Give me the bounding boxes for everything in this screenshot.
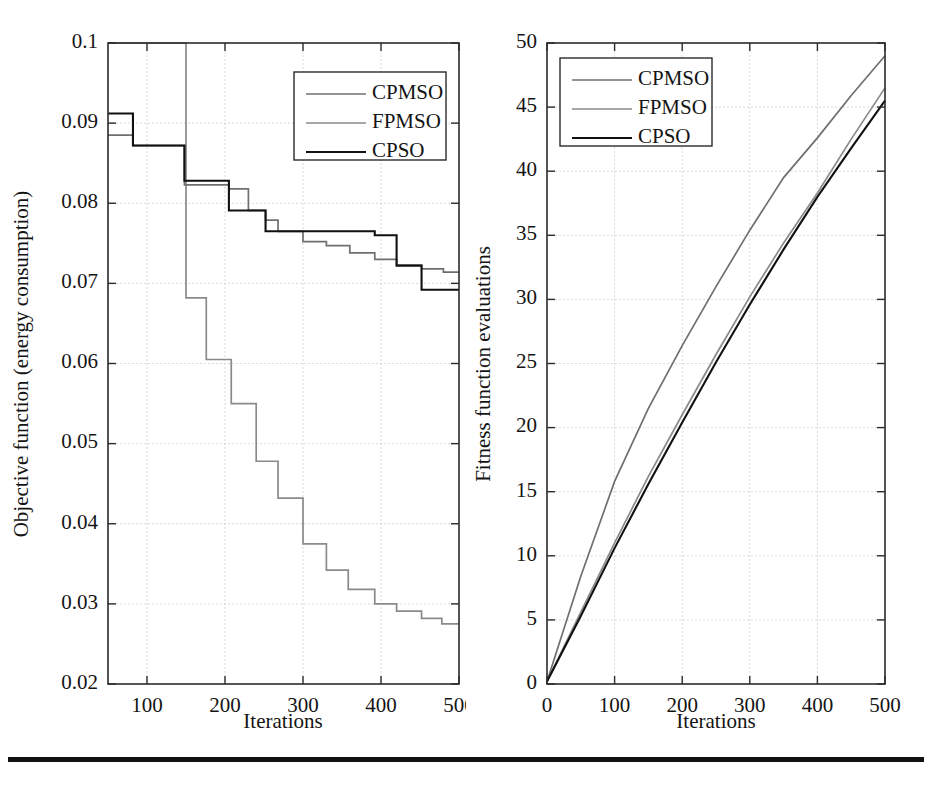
right-y-tick: 50 bbox=[516, 29, 537, 53]
left-legend: CPMSOFPMSOCPSO bbox=[294, 72, 446, 162]
left-y-tick: 0.04 bbox=[61, 510, 98, 534]
right-x-tick: 500 bbox=[869, 693, 901, 717]
right-y-tick: 25 bbox=[516, 349, 537, 373]
left-x-tick: 400 bbox=[365, 693, 397, 717]
right-y-tick-labels: 05101520253035404550 bbox=[516, 29, 537, 694]
left-x-tick: 200 bbox=[209, 693, 241, 717]
objective-function-chart-svg: 0.020.030.040.050.060.070.080.090.1 1002… bbox=[0, 0, 466, 740]
left-y-tick-labels: 0.020.030.040.050.060.070.080.090.1 bbox=[61, 29, 98, 694]
chart-panel-objective-function: 0.020.030.040.050.060.070.080.090.1 1002… bbox=[0, 0, 466, 740]
series-line-fpmso bbox=[547, 88, 885, 682]
series-line-cpmso bbox=[547, 56, 885, 682]
right-y-axis-title: Fitness function evaluations bbox=[471, 246, 495, 482]
right-x-axis-title: Iterations bbox=[676, 709, 755, 733]
right-y-tick: 20 bbox=[516, 413, 537, 437]
right-series-group bbox=[547, 56, 885, 682]
right-x-tick: 400 bbox=[802, 693, 834, 717]
right-x-tick: 0 bbox=[542, 693, 553, 717]
left-y-tick: 0.06 bbox=[61, 349, 98, 373]
left-y-tick: 0.1 bbox=[72, 29, 98, 53]
right-x-tick: 100 bbox=[599, 693, 631, 717]
left-y-axis-title: Objective function (energy consumption) bbox=[9, 191, 33, 538]
legend-label-fpmso: FPMSO bbox=[372, 109, 441, 133]
legend-label-fpmso: FPMSO bbox=[638, 95, 707, 119]
series-line-cpso bbox=[547, 101, 885, 682]
right-y-tick: 5 bbox=[527, 606, 538, 630]
legend-label-cpmso: CPMSO bbox=[638, 66, 709, 90]
legend-label-cpso: CPSO bbox=[372, 138, 425, 162]
left-x-tick: 100 bbox=[131, 693, 163, 717]
left-y-tick: 0.03 bbox=[61, 590, 98, 614]
right-y-tick: 0 bbox=[527, 670, 538, 694]
right-y-tick: 40 bbox=[516, 157, 537, 181]
legend-label-cpmso: CPMSO bbox=[372, 80, 443, 104]
figure-container: 0.020.030.040.050.060.070.080.090.1 1002… bbox=[0, 0, 932, 787]
left-x-axis-title: Iterations bbox=[243, 709, 322, 733]
right-legend: CPMSOFPMSOCPSO bbox=[560, 58, 712, 148]
chart-panel-fitness-evaluations: 05101520253035404550 0100200300400500 It… bbox=[466, 0, 932, 740]
right-y-tick: 15 bbox=[516, 478, 537, 502]
left-y-tick: 0.02 bbox=[61, 670, 98, 694]
right-y-tick: 35 bbox=[516, 221, 537, 245]
right-y-tick: 45 bbox=[516, 93, 537, 117]
legend-label-cpso: CPSO bbox=[638, 124, 691, 148]
left-x-tick: 500 bbox=[443, 693, 466, 717]
fitness-evaluations-chart-svg: 05101520253035404550 0100200300400500 It… bbox=[466, 0, 932, 740]
right-y-tick: 30 bbox=[516, 285, 537, 309]
left-y-tick: 0.05 bbox=[61, 429, 98, 453]
left-y-tick: 0.09 bbox=[61, 109, 98, 133]
right-y-tick: 10 bbox=[516, 542, 537, 566]
left-y-tick: 0.07 bbox=[61, 269, 98, 293]
bottom-horizontal-rule bbox=[8, 757, 924, 762]
left-y-tick: 0.08 bbox=[61, 189, 98, 213]
